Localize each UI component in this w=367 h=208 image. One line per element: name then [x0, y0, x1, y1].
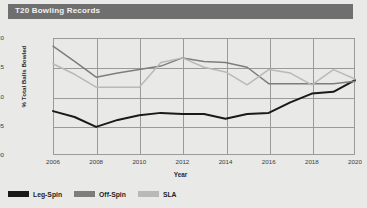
y-axis-tick-label: 0.10 [0, 93, 4, 100]
y-axis-tick-label: 0.15 [0, 63, 4, 70]
page-title: T20 Bowling Records [15, 6, 100, 15]
x-axis-tick-label: 2006 [38, 158, 68, 165]
x-axis-tick-label: 2010 [124, 158, 154, 165]
legend-label: Off-Spin [99, 191, 126, 198]
legend-swatch-icon [74, 191, 95, 197]
x-axis-tick-label: 2014 [211, 158, 241, 165]
legend-item-leg-spin[interactable]: Leg-Spin [8, 191, 62, 198]
series-line-off-spin [53, 46, 355, 83]
chart-legend: Leg-SpinOff-SpinSLA [8, 188, 189, 200]
chart-container: 0.000.050.100.150.20 2006200820102012201… [8, 21, 353, 183]
x-axis-tick-label: 2012 [167, 158, 197, 165]
y-axis-label: % Total Balls Bowled [20, 32, 27, 122]
series-line-sla [53, 58, 355, 87]
x-axis-tick-label: 2008 [81, 158, 111, 165]
legend-label: Leg-Spin [33, 191, 62, 198]
legend-label: SLA [163, 191, 177, 198]
legend-item-off-spin[interactable]: Off-Spin [74, 191, 126, 198]
panel-header: T20 Bowling Records [8, 4, 353, 19]
x-axis-tick-label: 2020 [340, 158, 367, 165]
legend-item-sla[interactable]: SLA [138, 191, 177, 198]
y-axis-tick-label: 0.00 [0, 151, 4, 158]
y-axis-tick-label: 0.20 [0, 34, 4, 41]
chart-series-layer [53, 38, 355, 155]
x-axis-tick-label: 2016 [254, 158, 284, 165]
legend-swatch-icon [138, 191, 159, 197]
legend-swatch-icon [8, 191, 29, 197]
y-axis-tick-label: 0.05 [0, 122, 4, 129]
x-axis-label: Year [8, 171, 353, 178]
x-axis-tick-label: 2018 [297, 158, 327, 165]
